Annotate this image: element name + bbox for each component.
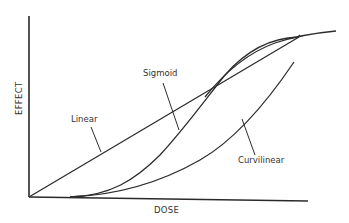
sigmoid-curve: [70, 35, 300, 197]
sigmoid-label: Sigmoid: [143, 68, 177, 78]
curvilinear-label: Curvilinear: [238, 155, 285, 165]
y-axis-label: EFFECT: [14, 81, 24, 115]
linear-pointer: [91, 127, 101, 152]
x-axis-label: DOSE: [154, 205, 179, 215]
sigmoid-upper-branch: [205, 31, 336, 97]
sigmoid-pointer: [163, 83, 179, 130]
linear-curve: [29, 37, 299, 197]
curvilinear-pointer: [242, 119, 255, 155]
linear-label: Linear: [71, 114, 98, 124]
dose-effect-chart: Linear Sigmoid Curvilinear DOSE EFFECT: [0, 0, 349, 223]
